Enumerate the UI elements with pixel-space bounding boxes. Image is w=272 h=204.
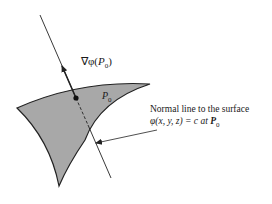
annotation-text: Normal line to the surface φ(x, y, z) = … [150,103,249,131]
annotation-line1: Normal line to the surface [150,103,249,115]
surface-patch [17,84,150,187]
normal-line-diagram [0,0,272,204]
normal-line-lower [88,125,111,178]
annotation-line2: φ(x, y, z) = c at P0 [150,115,249,131]
point-label: P0 [102,90,112,104]
point-p0 [73,95,78,100]
annotation-pointer [96,130,157,143]
gradient-label: ∇φ(P0) [81,55,112,70]
